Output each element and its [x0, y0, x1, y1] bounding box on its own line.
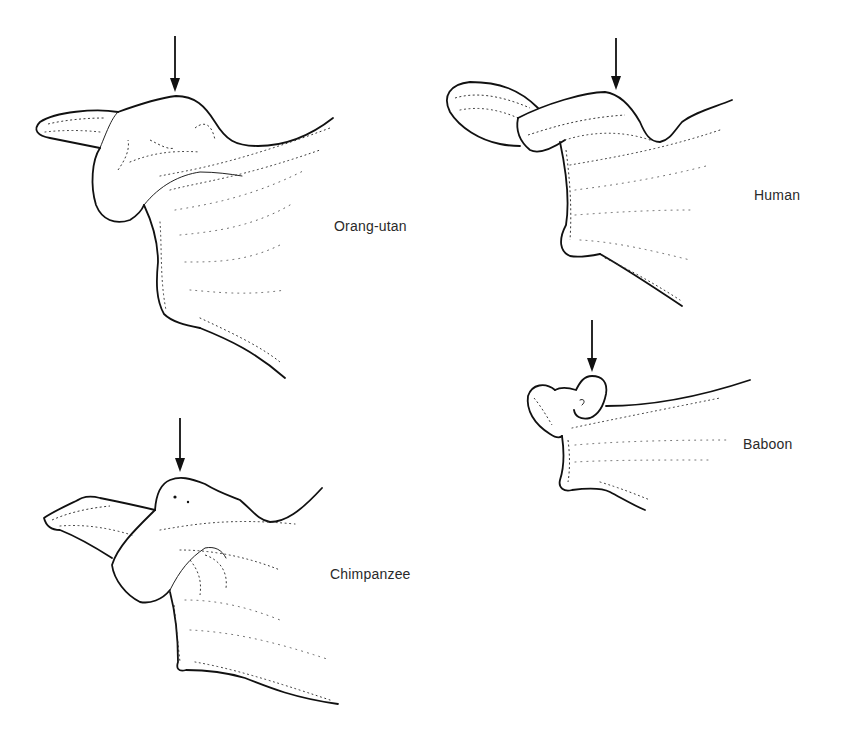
human-scapula-drawing — [420, 0, 843, 310]
panel-orang-utan: Orang-utan — [0, 0, 420, 380]
panel-chimpanzee: Chimpanzee — [30, 400, 450, 745]
arrow-down-icon — [170, 36, 180, 92]
arrow-down-icon — [175, 418, 185, 472]
arrow-down-icon — [587, 320, 597, 372]
label-chimpanzee: Chimpanzee — [330, 566, 411, 582]
orang-utan-scapula-drawing — [0, 0, 420, 380]
arrow-down-icon — [611, 38, 621, 90]
panel-human: Human — [420, 0, 843, 310]
label-orang-utan: Orang-utan — [334, 218, 407, 234]
panel-baboon: Baboon — [510, 310, 843, 510]
label-human: Human — [754, 187, 800, 203]
primate-shoulder-comparison-figure: Orang-utan Human — [0, 0, 843, 745]
baboon-scapula-drawing — [510, 310, 843, 510]
label-baboon: Baboon — [743, 436, 792, 452]
